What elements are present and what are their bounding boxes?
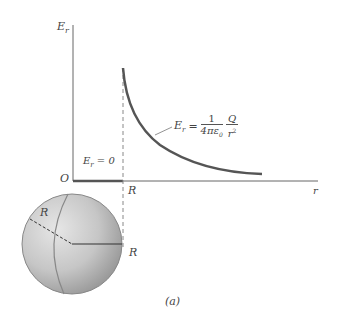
figure-caption: (a) (165, 295, 180, 308)
inside-field-label: Er = 0 (83, 155, 115, 169)
x-axis-label: r (313, 185, 318, 196)
formula-pointer (155, 127, 172, 135)
field-diagram (0, 0, 345, 329)
sphere-radius-label-right: R (129, 246, 137, 259)
sphere-radius-label-left: R (40, 206, 48, 219)
origin-label: O (60, 172, 69, 185)
field-formula: Er = 1 4πε0 Q r2 (174, 113, 238, 140)
y-axis-label: Er (57, 20, 69, 35)
radius-tick-label: R (128, 184, 136, 197)
